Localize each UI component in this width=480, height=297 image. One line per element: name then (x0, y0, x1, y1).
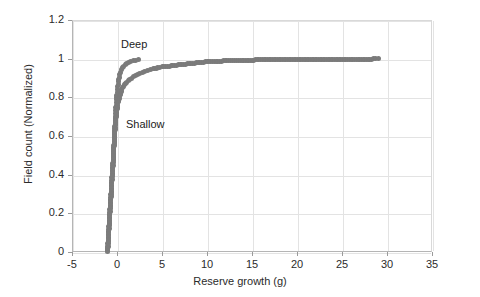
chart-figure: -50510152025303500.20.40.60.811.2DeepSha… (0, 0, 480, 297)
x-tick-label: 10 (187, 258, 227, 270)
data-point (136, 57, 141, 62)
data-point (376, 56, 381, 61)
x-tick-mark (387, 252, 388, 256)
y-tick-mark (68, 213, 72, 214)
y-tick-mark (68, 136, 72, 137)
x-tick-label: 0 (97, 258, 137, 270)
gridline-vertical (388, 21, 389, 251)
x-tick-label: 25 (322, 258, 362, 270)
y-tick-mark (68, 59, 72, 60)
series-annotation-shallow: Shallow (126, 118, 165, 130)
gridline-vertical (253, 21, 254, 251)
x-tick-label: 35 (412, 258, 452, 270)
y-tick-mark (68, 175, 72, 176)
x-axis-title: Reserve growth (g) (0, 275, 480, 287)
x-tick-mark (207, 252, 208, 256)
x-tick-mark (432, 252, 433, 256)
y-tick-label: 0.2 (24, 206, 64, 218)
y-tick-mark (68, 252, 72, 253)
gridline-vertical (298, 21, 299, 251)
x-tick-mark (297, 252, 298, 256)
series-annotation-deep: Deep (121, 38, 147, 50)
plot-area (72, 20, 432, 252)
y-axis-title: Field count (Normalized) (22, 44, 34, 204)
gridline-horizontal (73, 176, 431, 177)
x-tick-mark (252, 252, 253, 256)
x-tick-label: 5 (142, 258, 182, 270)
gridline-vertical (208, 21, 209, 251)
y-tick-mark (68, 20, 72, 21)
x-tick-mark (72, 252, 73, 256)
y-tick-label: 0 (24, 245, 64, 257)
gridline-vertical (343, 21, 344, 251)
y-tick-label: 1.2 (24, 13, 64, 25)
x-tick-mark (117, 252, 118, 256)
x-tick-label: -5 (52, 258, 92, 270)
x-tick-mark (342, 252, 343, 256)
y-tick-mark (68, 97, 72, 98)
gridline-vertical (73, 21, 74, 251)
x-tick-mark (162, 252, 163, 256)
gridline-horizontal (73, 21, 431, 22)
gridline-vertical (433, 21, 434, 251)
x-tick-label: 30 (367, 258, 407, 270)
gridline-horizontal (73, 137, 431, 138)
x-tick-label: 20 (277, 258, 317, 270)
gridline-horizontal (73, 98, 431, 99)
x-tick-label: 15 (232, 258, 272, 270)
gridline-vertical (163, 21, 164, 251)
gridline-horizontal (73, 214, 431, 215)
gridline-vertical (118, 21, 119, 251)
